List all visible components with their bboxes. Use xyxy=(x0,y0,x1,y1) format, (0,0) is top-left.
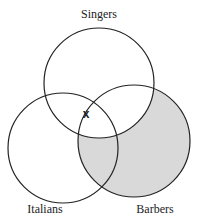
venn-diagram: Singers Italians Barbers x xyxy=(0,0,199,220)
shaded-region xyxy=(0,0,199,220)
barbers-label: Barbers xyxy=(136,202,174,216)
italians-label: Italians xyxy=(27,202,63,216)
singers-label: Singers xyxy=(81,7,117,21)
x-mark: x xyxy=(83,107,90,121)
